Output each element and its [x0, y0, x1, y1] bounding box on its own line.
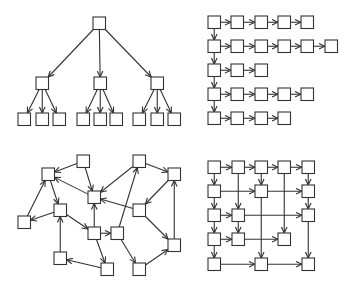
graph-node [208, 40, 221, 53]
graph-diagrams [0, 0, 357, 289]
graph-node [302, 161, 315, 174]
graph-node [208, 88, 221, 101]
graph-node [231, 64, 244, 77]
graph-node [54, 252, 67, 265]
graph-node [278, 40, 291, 53]
edge-arrow [86, 90, 97, 114]
graph-node [54, 204, 67, 217]
edge-arrow [146, 250, 169, 265]
graph-node [36, 77, 49, 90]
graph-node [302, 258, 315, 271]
graph-node [208, 16, 221, 29]
graph-node [278, 233, 291, 246]
edge-arrow [31, 212, 55, 220]
edge-arrow [97, 240, 105, 264]
graph-node [88, 227, 101, 240]
graph-node [168, 168, 181, 181]
graph-node [101, 263, 114, 276]
edge-arrow [55, 177, 89, 194]
graph-node [325, 40, 338, 53]
graph-node [208, 112, 221, 125]
graph-node [18, 216, 31, 229]
graph-node [168, 113, 181, 126]
graph-node [301, 40, 314, 53]
graph-node [231, 16, 244, 29]
graph-node [278, 16, 291, 29]
graph-node [133, 204, 146, 217]
graph-node [133, 155, 146, 168]
edge-arrow [101, 199, 134, 208]
graph-node [255, 88, 268, 101]
edge-arrow [146, 217, 169, 240]
graph-node [88, 191, 101, 204]
edge-arrow [67, 260, 102, 268]
graph-node [255, 64, 268, 77]
graph-node [151, 77, 164, 90]
graph-node [278, 161, 291, 174]
linked-lists-diagram [208, 16, 338, 125]
edge-arrow [121, 240, 135, 264]
edge-arrow [145, 181, 168, 205]
edge-arrow [27, 181, 45, 217]
graph-node [94, 113, 107, 126]
graph-node [208, 258, 221, 271]
edge-arrow [48, 30, 93, 78]
graph-node [301, 16, 314, 29]
graph-node [255, 258, 268, 271]
edge-arrow [85, 168, 92, 192]
graph-node [133, 263, 146, 276]
edge-arrow [50, 181, 58, 205]
edge-arrow [142, 90, 154, 114]
graph-node [208, 64, 221, 77]
random-graph-diagram [18, 155, 181, 276]
grid-graph-diagram [208, 161, 315, 271]
graph-node [77, 155, 90, 168]
graph-node [255, 40, 268, 53]
graph-node [208, 233, 221, 246]
graph-node [18, 113, 31, 126]
graph-node [255, 112, 268, 125]
graph-node [232, 161, 245, 174]
graph-node [208, 161, 221, 174]
graph-node [151, 113, 164, 126]
graph-node [278, 88, 291, 101]
graph-node [77, 113, 90, 126]
graph-node [232, 209, 245, 222]
graph-node [111, 227, 124, 240]
graph-node [208, 185, 221, 198]
graph-node [42, 168, 55, 181]
graph-node [231, 112, 244, 125]
edge-arrow [55, 164, 78, 172]
diagram-canvas [0, 0, 357, 289]
graph-node [255, 185, 268, 198]
edge-arrow [99, 30, 100, 78]
graph-node [168, 239, 181, 252]
graph-node [36, 113, 49, 126]
graph-node [255, 161, 268, 174]
edge-arrow [101, 166, 134, 192]
edge-arrow [105, 30, 151, 78]
graph-node [278, 112, 291, 125]
graph-node [133, 113, 146, 126]
edge-arrow [67, 214, 89, 229]
graph-node [208, 209, 221, 222]
edge-arrow [160, 90, 171, 114]
graph-node [110, 113, 123, 126]
graph-node [302, 209, 315, 222]
graph-node [255, 16, 268, 29]
graph-node [231, 88, 244, 101]
graph-node [232, 233, 245, 246]
tree-diagram [18, 17, 181, 126]
edge-arrow [119, 168, 137, 228]
edge-arrow [27, 90, 39, 114]
graph-node [93, 17, 106, 30]
graph-node [301, 88, 314, 101]
edge-arrow [45, 90, 56, 114]
edge-arrow [103, 90, 113, 114]
graph-node [231, 40, 244, 53]
graph-node [94, 77, 107, 90]
edge-arrow [146, 164, 169, 172]
graph-node [53, 113, 66, 126]
graph-node [302, 185, 315, 198]
